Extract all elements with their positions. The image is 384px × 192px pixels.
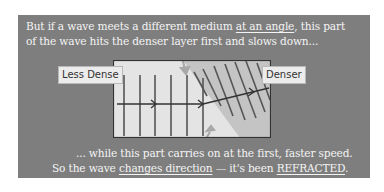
outro-text-part: . <box>345 162 348 174</box>
less-dense-label: Less Dense <box>58 66 123 84</box>
emphasis-at-an-angle: at an angle <box>236 20 294 32</box>
intro-text-line-1: But if a wave meets a different medium a… <box>26 20 345 33</box>
outro-text-part: — it's been <box>212 162 276 174</box>
outro-text-line-1: ... while this part carries on at the fi… <box>76 147 353 160</box>
emphasis-changes-direction: changes direction <box>119 162 212 174</box>
emphasis-refracted: REFRACTED <box>277 162 345 174</box>
outro-text-line-2: So the wave changes direction — it's bee… <box>52 162 348 175</box>
intro-text-line-2: of the wave hits the denser layer first … <box>26 35 318 48</box>
refraction-diagram <box>113 60 271 138</box>
denser-label: Denser <box>262 66 306 84</box>
outro-text-part: So the wave <box>52 162 119 174</box>
intro-text-part: But if a wave meets a different medium <box>26 20 236 32</box>
intro-text-part: , this part <box>294 20 345 32</box>
